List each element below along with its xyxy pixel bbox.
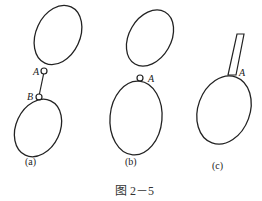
panel-b: A (b) <box>107 2 183 168</box>
panel-c: A (c) <box>188 34 261 172</box>
lower-body-b <box>107 79 165 157</box>
rod-ab <box>39 72 44 96</box>
panel-label-c: (c) <box>212 160 223 172</box>
panel-a: A B (a) <box>5 0 91 168</box>
lower-body-a <box>5 92 70 165</box>
panel-label-b: (b) <box>125 156 137 168</box>
point-a-label-a: A <box>32 66 40 77</box>
panel-label-a: (a) <box>25 156 36 168</box>
figure-canvas: A B (a) A (b) A (c) 图 2－5 <box>0 0 262 201</box>
body-c <box>188 68 261 152</box>
pin-a-b <box>137 75 143 81</box>
pin-a <box>41 68 47 74</box>
point-a-label-c: A <box>238 67 246 78</box>
figure-caption: 图 2－5 <box>115 184 154 198</box>
upper-body-a <box>25 0 91 72</box>
upper-body-b <box>117 2 183 75</box>
point-b-label-a: B <box>27 91 33 102</box>
point-a-label-b: A <box>147 73 155 84</box>
